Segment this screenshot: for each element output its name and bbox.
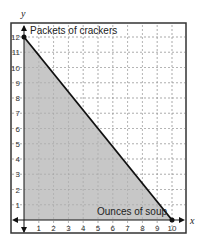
- y-arrow-down-icon: [21, 227, 27, 233]
- svg-text:12: 12: [11, 33, 20, 42]
- svg-text:2: 2: [16, 186, 21, 195]
- svg-text:9: 9: [16, 79, 21, 88]
- y-annotation: Packets of crackers: [30, 25, 117, 36]
- x-annotation: Ounces of soup: [97, 206, 167, 217]
- y-axis-label: y: [20, 8, 26, 19]
- svg-text:3: 3: [66, 224, 71, 233]
- point-y-intercept: [22, 35, 27, 40]
- point-x-intercept: [170, 218, 175, 223]
- svg-text:1: 1: [37, 224, 42, 233]
- svg-text:7: 7: [16, 109, 21, 118]
- svg-text:9: 9: [155, 224, 160, 233]
- svg-text:7: 7: [125, 224, 130, 233]
- x-axis-label: x: [189, 215, 195, 226]
- svg-text:11: 11: [12, 48, 21, 57]
- x-arrow-left-icon: [12, 217, 18, 223]
- svg-text:10: 10: [11, 64, 20, 73]
- svg-text:6: 6: [16, 125, 21, 134]
- svg-text:3: 3: [16, 170, 21, 179]
- svg-text:5: 5: [96, 224, 101, 233]
- y-arrow-up-icon: [21, 25, 27, 31]
- svg-text:8: 8: [16, 94, 21, 103]
- svg-text:1: 1: [16, 201, 21, 210]
- svg-text:8: 8: [140, 224, 145, 233]
- svg-text:4: 4: [16, 155, 21, 164]
- svg-text:6: 6: [111, 224, 116, 233]
- svg-text:2: 2: [51, 224, 56, 233]
- svg-text:10: 10: [168, 224, 177, 233]
- x-arrow-right-icon: [179, 217, 185, 223]
- svg-text:4: 4: [81, 224, 86, 233]
- graph: 12345678910123456789101112 y x Packets o…: [0, 0, 200, 250]
- svg-text:5: 5: [16, 140, 21, 149]
